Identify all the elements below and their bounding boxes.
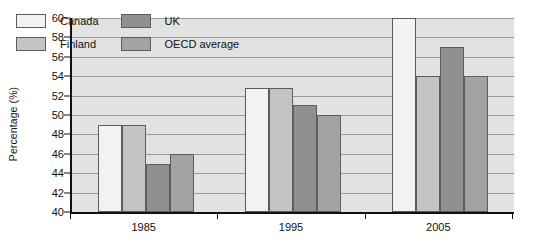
legend-label: OECD average [165, 38, 248, 50]
bar-chart-figure: Percentage (%) 4042444648505254565860 19… [0, 0, 534, 247]
bar[interactable] [293, 105, 317, 212]
x-tick-label: 1995 [279, 221, 303, 233]
bar[interactable] [122, 125, 146, 212]
legend-label: Finland [60, 38, 107, 50]
bar[interactable] [269, 88, 293, 212]
y-tick-label: 42 [0, 187, 64, 199]
y-tick-label: 44 [0, 167, 64, 179]
legend-swatch [121, 37, 151, 51]
bar[interactable] [392, 18, 416, 212]
y-tick-label: 56 [0, 51, 64, 63]
x-tick-label: 1985 [131, 221, 155, 233]
y-tick-label: 46 [0, 148, 64, 160]
y-tick-label: 50 [0, 109, 64, 121]
legend-label: UK [165, 15, 248, 27]
bar[interactable] [245, 88, 269, 212]
x-tick-mark [217, 212, 218, 219]
x-tick-mark [70, 212, 71, 219]
bar[interactable] [98, 125, 122, 212]
bar[interactable] [440, 47, 464, 212]
legend-label: Canada [60, 15, 107, 27]
bar-group [367, 18, 514, 212]
bar[interactable] [317, 115, 341, 212]
x-tick-label: 2005 [426, 221, 450, 233]
legend-swatch [16, 37, 46, 51]
y-tick-label: 54 [0, 70, 64, 82]
legend-swatch [16, 14, 46, 28]
x-tick-mark [512, 212, 513, 219]
bar[interactable] [170, 154, 194, 212]
x-tick-mark [365, 212, 366, 219]
chart-legend: CanadaUKFinlandOECD average [16, 14, 247, 51]
bar[interactable] [146, 164, 170, 213]
y-tick-label: 48 [0, 128, 64, 140]
y-tick-label: 52 [0, 90, 64, 102]
legend-swatch [121, 14, 151, 28]
bar[interactable] [416, 76, 440, 212]
y-tick-label: 40 [0, 206, 64, 218]
bar[interactable] [464, 76, 488, 212]
